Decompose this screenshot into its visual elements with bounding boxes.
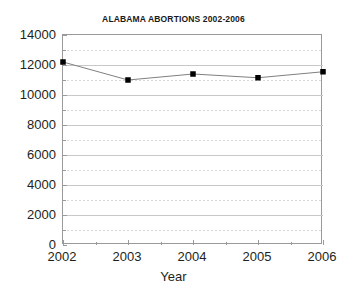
x-axis-tick-label: 2002 bbox=[48, 250, 77, 263]
x-axis-tick-label: 2003 bbox=[113, 250, 142, 263]
x-axis-tick-label: 2006 bbox=[308, 250, 337, 263]
x-axis-labels: 20022003200420052006 bbox=[0, 0, 347, 299]
chart-container: ALABAMA ABORTIONS 2002-2006 020004000600… bbox=[0, 0, 347, 299]
x-axis-tick-label: 2005 bbox=[243, 250, 272, 263]
x-axis-tick-label: 2004 bbox=[178, 250, 207, 263]
x-axis-title: Year bbox=[0, 269, 347, 284]
